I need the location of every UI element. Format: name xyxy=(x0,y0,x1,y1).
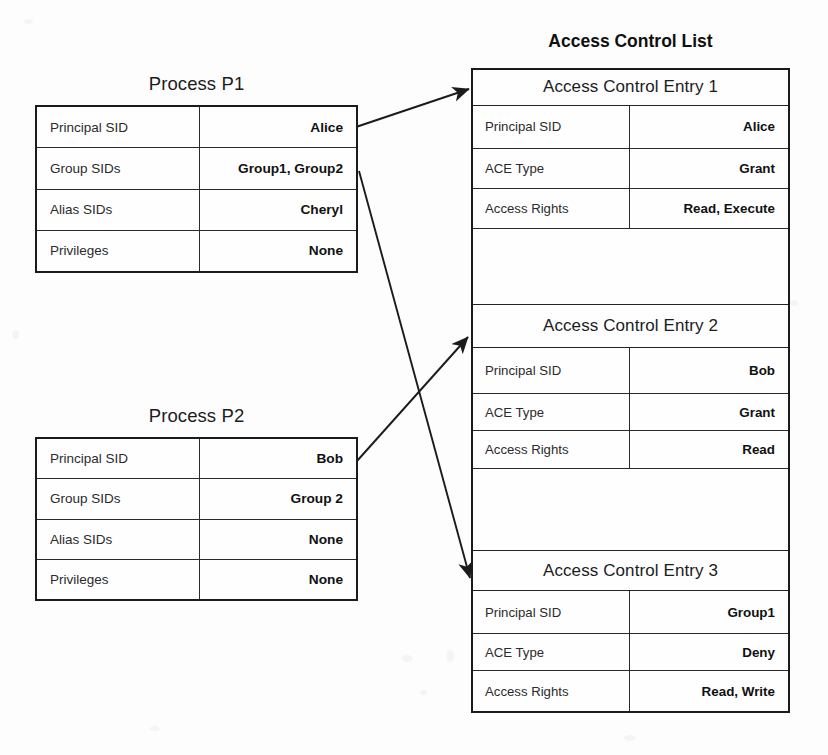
table-row: Alias SIDs None xyxy=(37,520,356,560)
row-value: None xyxy=(200,231,356,271)
row-value: Group 2 xyxy=(200,479,356,518)
row-key: Principal SID xyxy=(473,348,630,394)
scan-artifact xyxy=(790,300,798,306)
process-p2-title: Process P2 xyxy=(35,405,358,427)
table-row: Privileges None xyxy=(37,560,356,599)
table-row: ACE Type Grant xyxy=(473,394,788,431)
scan-artifact xyxy=(420,690,427,695)
row-key: Access Rights xyxy=(473,671,630,711)
table-row: ACE Type Deny xyxy=(473,634,788,671)
arrow-p1-group-to-ace3 xyxy=(359,171,470,578)
row-key: Principal SID xyxy=(37,107,200,147)
ace-2-header: Access Control Entry 2 xyxy=(473,305,788,348)
scan-artifact xyxy=(402,655,413,662)
table-row: Principal SID Alice xyxy=(473,106,788,149)
ace-2-spacer-row xyxy=(473,469,788,551)
ace-1-header: Access Control Entry 1 xyxy=(473,70,788,106)
row-value: Alice xyxy=(630,106,788,148)
row-value: Read xyxy=(630,431,788,468)
table-row: Access Rights Read xyxy=(473,431,788,469)
row-key: Principal SID xyxy=(37,439,200,478)
table-row: Principal SID Alice xyxy=(37,107,356,148)
table-row: Privileges None xyxy=(37,231,356,271)
scan-artifact xyxy=(446,650,454,662)
row-value: Read, Write xyxy=(630,671,788,711)
row-value: Group1, Group2 xyxy=(200,148,356,188)
table-row: Alias SIDs Cheryl xyxy=(37,190,356,231)
row-value: Cheryl xyxy=(200,190,356,230)
ace-3-header: Access Control Entry 3 xyxy=(473,551,788,591)
row-key: Group SIDs xyxy=(37,479,200,518)
table-row: Principal SID Group1 xyxy=(473,591,788,634)
table-row: Group SIDs Group 2 xyxy=(37,479,356,519)
row-value: Bob xyxy=(630,348,788,394)
row-value: Read, Execute xyxy=(630,189,788,228)
scan-artifact xyxy=(150,726,160,731)
row-key: Alias SIDs xyxy=(37,520,200,559)
row-value: Deny xyxy=(630,634,788,670)
scan-artifact xyxy=(624,735,636,741)
table-row: ACE Type Grant xyxy=(473,149,788,189)
arrow-p1-principal-to-ace1 xyxy=(353,89,469,128)
row-key: ACE Type xyxy=(473,149,630,188)
table-row: Principal SID Bob xyxy=(37,439,356,479)
scan-artifact xyxy=(12,330,19,339)
row-key: Group SIDs xyxy=(37,148,200,188)
row-key: ACE Type xyxy=(473,634,630,670)
diagram-canvas: Process P1 Principal SID Alice Group SID… xyxy=(0,0,828,755)
row-key: Privileges xyxy=(37,560,200,599)
row-key: ACE Type xyxy=(473,394,630,430)
row-key: Access Rights xyxy=(473,431,630,468)
access-control-list-title: Access Control List xyxy=(471,31,790,52)
row-key: Privileges xyxy=(37,231,200,271)
row-value: Alice xyxy=(200,107,356,147)
table-row: Access Rights Read, Execute xyxy=(473,189,788,229)
arrow-p2-principal-to-ace2 xyxy=(357,337,468,461)
access-control-list-box: Access Control Entry 1 Principal SID Ali… xyxy=(471,68,790,713)
process-p1-table: Principal SID Alice Group SIDs Group1, G… xyxy=(35,105,358,273)
row-key: Principal SID xyxy=(473,106,630,148)
row-key: Access Rights xyxy=(473,189,630,228)
row-value: Bob xyxy=(200,439,356,478)
table-row: Access Rights Read, Write xyxy=(473,671,788,711)
row-value: Grant xyxy=(630,394,788,430)
row-value: None xyxy=(200,560,356,599)
row-key: Principal SID xyxy=(473,591,630,633)
table-row: Group SIDs Group1, Group2 xyxy=(37,148,356,189)
row-value: None xyxy=(200,520,356,559)
ace-1-spacer-row xyxy=(473,229,788,305)
scan-artifact xyxy=(24,19,33,24)
process-p2-table: Principal SID Bob Group SIDs Group 2 Ali… xyxy=(35,437,358,601)
row-value: Grant xyxy=(630,149,788,188)
row-key: Alias SIDs xyxy=(37,190,200,230)
process-p1-title: Process P1 xyxy=(35,73,358,95)
row-value: Group1 xyxy=(630,591,788,633)
table-row: Principal SID Bob xyxy=(473,348,788,395)
